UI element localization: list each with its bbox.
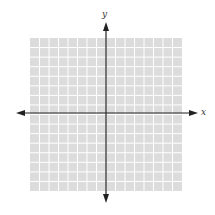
coordinate-plane: y x [0,0,215,215]
coordinate-grid-svg [0,0,215,215]
y-axis-up-arrow-icon [103,22,109,31]
y-axis-down-arrow-icon [103,194,109,203]
x-axis-left-arrow-icon [16,110,25,116]
y-axis-label: y [102,10,107,19]
x-axis-right-arrow-icon [189,110,198,116]
x-axis-label: x [201,108,206,117]
